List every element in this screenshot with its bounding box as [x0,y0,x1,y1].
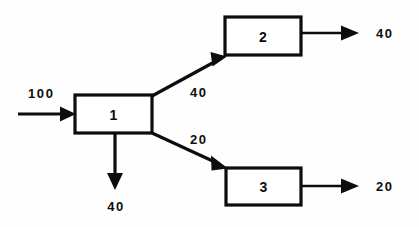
output-flow-node-3-label: 20 [376,179,394,194]
flow-1-to-2-group: 40 [152,52,227,100]
input-flow-label: 100 [28,86,55,101]
loss-flow-node-1-group: 40 [107,133,125,214]
output-flow-node-2-label: 40 [376,26,394,41]
node-3-label: 3 [260,179,268,195]
flow-diagram-canvas: 100 1 40 20 40 2 [0,0,419,227]
loss-flow-node-1-arrowhead-icon [107,173,123,190]
flow-1-to-2-line [152,60,218,96]
output-flow-node-3-arrowhead-icon [341,179,359,194]
input-flow-group: 100 [18,86,76,122]
node-2-label: 2 [259,29,267,45]
node-1-group[interactable]: 1 [75,95,152,133]
flow-1-to-3-group: 20 [152,132,228,171]
node-2-group[interactable]: 2 [225,17,301,55]
output-flow-node-2-arrowhead-icon [341,26,359,41]
flow-diagram-svg: 100 1 40 20 40 2 [0,0,419,227]
loss-flow-node-1-label: 40 [107,199,125,214]
node-1-label: 1 [110,107,118,123]
flow-1-to-2-label: 40 [190,85,208,100]
output-flow-node-3-group: 20 [301,179,394,194]
node-3-group[interactable]: 3 [226,168,301,205]
flow-1-to-3-label: 20 [190,132,208,147]
output-flow-node-2-group: 40 [301,26,394,41]
